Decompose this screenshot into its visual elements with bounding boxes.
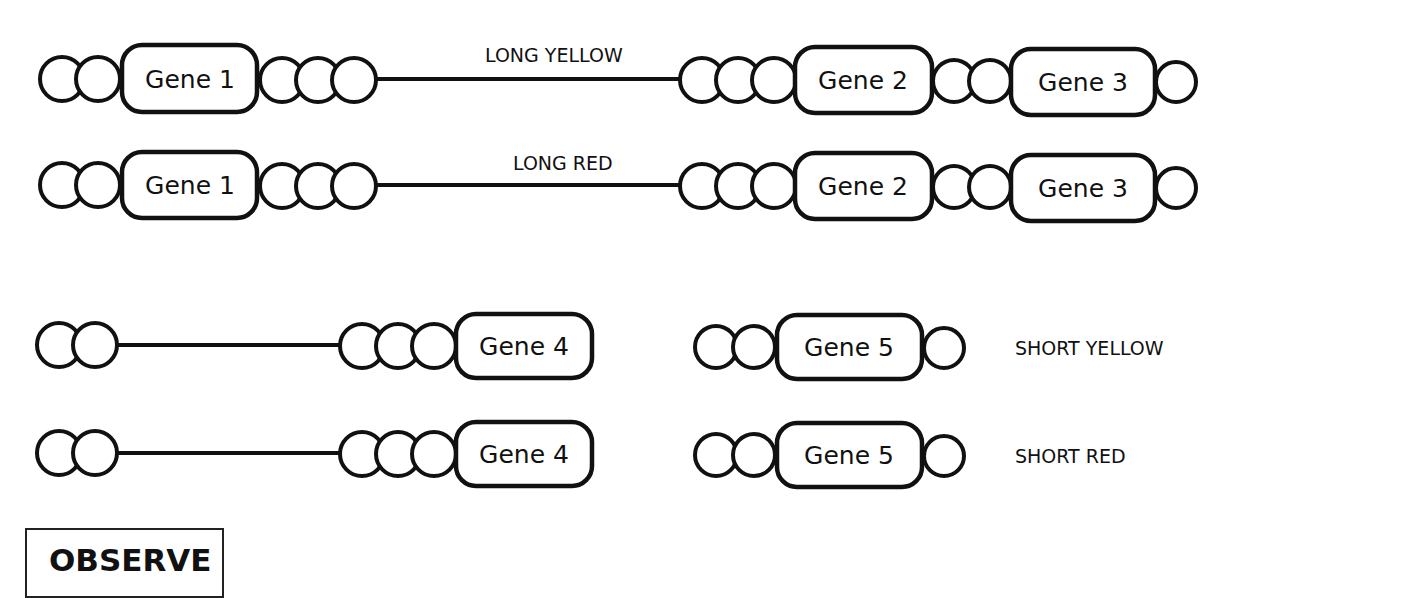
gene-label: Gene 1 (145, 171, 235, 200)
bead-circle (76, 57, 120, 101)
bead-circle (733, 326, 775, 368)
bead-circle (752, 164, 796, 208)
chromosome-row-long-red: Gene 1 LONG RED Gene 2 Gene 3 (40, 152, 1196, 221)
bead-circle (1156, 62, 1196, 102)
observe-box: OBSERVE (25, 528, 224, 598)
bead-circle (695, 326, 737, 368)
gene-label: Gene 2 (818, 66, 908, 95)
gene-label: Gene 4 (479, 440, 569, 469)
bead-circle (924, 436, 964, 476)
bead-circle (412, 432, 456, 476)
gene-label: Gene 3 (1038, 68, 1128, 97)
bead-circle (924, 328, 964, 368)
observe-label: OBSERVE (49, 542, 212, 578)
chromosome-row-short-red: Gene 4 Gene 5 SHORT RED (37, 422, 1126, 487)
bead-circle (332, 164, 376, 208)
gene-label: Gene 1 (145, 65, 235, 94)
row-label: SHORT RED (1015, 445, 1126, 467)
row-label: LONG YELLOW (485, 44, 623, 66)
gene-label: Gene 5 (804, 441, 894, 470)
bead-circle (969, 60, 1011, 102)
bead-circle (73, 431, 117, 475)
bead-circle (73, 323, 117, 367)
bead-circle (969, 166, 1011, 208)
bead-circle (695, 434, 737, 476)
row-label: LONG RED (513, 152, 613, 174)
gene-label: Gene 4 (479, 332, 569, 361)
gene-label: Gene 2 (818, 172, 908, 201)
bead-circle (752, 58, 796, 102)
bead-circle (412, 324, 456, 368)
gene-label: Gene 3 (1038, 174, 1128, 203)
gene-label: Gene 5 (804, 333, 894, 362)
bead-circle (332, 58, 376, 102)
bead-circle (76, 163, 120, 207)
chromosome-row-short-yellow: Gene 4 Gene 5 SHORT YELLOW (37, 314, 1164, 379)
row-label: SHORT YELLOW (1015, 337, 1164, 359)
bead-circle (1156, 168, 1196, 208)
chromosome-row-long-yellow: Gene 1 LONG YELLOW Gene 2 Gene 3 (40, 44, 1196, 115)
bead-circle (733, 434, 775, 476)
